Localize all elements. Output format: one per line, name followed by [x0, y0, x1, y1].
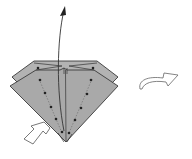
fold-up-arrow-head [60, 6, 66, 16]
origami-diagram [0, 0, 192, 159]
push-arrow [24, 122, 50, 144]
turn-over-arrow [140, 73, 178, 89]
